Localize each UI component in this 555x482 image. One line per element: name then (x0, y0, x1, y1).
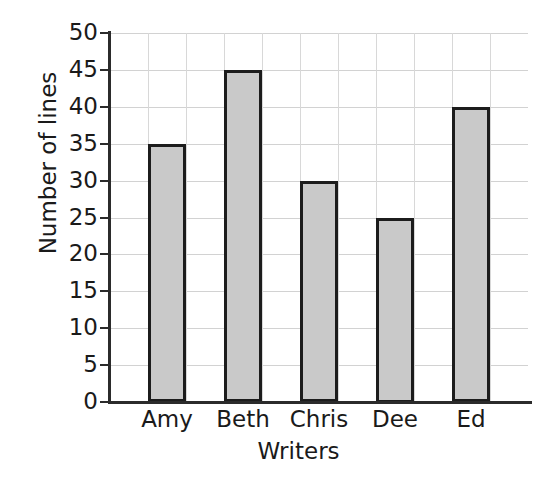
y-axis-tick-label-wrap: 50 (48, 21, 98, 45)
bar (300, 181, 338, 402)
gridline-vertical (490, 33, 491, 402)
y-axis-tick-label: 15 (54, 279, 98, 302)
bar (452, 107, 490, 402)
x-axis-line (108, 401, 532, 404)
y-axis-tick-label: 50 (54, 21, 98, 44)
y-axis-tick-label: 40 (54, 95, 98, 118)
y-axis-tick-label: 0 (54, 390, 98, 413)
y-axis-tick-label: 25 (54, 206, 98, 229)
x-axis-title: Writers (0, 438, 555, 464)
y-axis-tick-label-wrap: 45 (48, 58, 98, 82)
x-axis-category-label: Ed (411, 406, 531, 434)
y-axis-tick-label: 35 (54, 132, 98, 155)
bar (148, 144, 186, 402)
y-axis-tick-label-wrap: 15 (48, 279, 98, 303)
y-axis-tick-label-wrap: 35 (48, 132, 98, 156)
gridline-horizontal (110, 70, 528, 71)
y-axis-title: Number of lines (35, 53, 61, 273)
gridline-vertical (414, 33, 415, 402)
plot-area (110, 33, 528, 402)
y-axis-tick-label: 30 (54, 169, 98, 192)
bar (224, 70, 262, 402)
y-axis-tick-label-wrap: 20 (48, 242, 98, 266)
y-axis-tick-label: 10 (54, 316, 98, 339)
y-axis-tick-label: 45 (54, 58, 98, 81)
gridline-vertical (338, 33, 339, 402)
x-axis-title-text: Writers (257, 438, 339, 464)
gridline-vertical (186, 33, 187, 402)
y-axis-tick-label-wrap: 5 (48, 353, 98, 377)
y-axis-tick-label-wrap: 0 (48, 390, 98, 414)
y-axis-tick-label-wrap: 30 (48, 169, 98, 193)
y-axis-tick-label: 5 (54, 353, 98, 376)
y-axis-line (108, 31, 111, 404)
y-axis-tick-label-wrap: 40 (48, 95, 98, 119)
y-axis-tick-label-wrap: 10 (48, 316, 98, 340)
bar-chart: Number of lines 50454035302520151050 Amy… (0, 0, 555, 482)
gridline-horizontal (110, 33, 528, 34)
y-axis-tick-label-wrap: 25 (48, 206, 98, 230)
gridline-vertical (262, 33, 263, 402)
y-axis-tick-label: 20 (54, 242, 98, 265)
bar (376, 218, 414, 403)
